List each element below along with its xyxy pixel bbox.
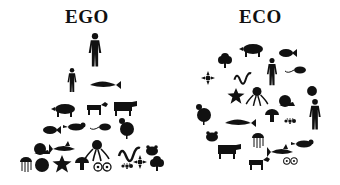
coral-icon (150, 156, 164, 171)
snail-icon (34, 143, 50, 155)
silhouettes (0, 0, 340, 185)
snake-icon (119, 148, 140, 161)
flower-icon (133, 155, 147, 169)
jellyfish-icon (252, 133, 264, 148)
cow-icon (218, 144, 241, 159)
sphere-icon (35, 158, 49, 172)
pig-icon (239, 44, 263, 57)
human-icon (309, 99, 320, 129)
snake-icon (234, 73, 251, 84)
mushroom-icon (75, 157, 89, 170)
ant-icon (284, 118, 296, 124)
chicken-icon (196, 104, 211, 125)
cow-icon (114, 101, 137, 116)
whale-icon (225, 119, 256, 127)
cells-icon (94, 163, 111, 171)
shark-icon (49, 141, 75, 154)
dog-icon (249, 157, 270, 170)
ant-icon (121, 163, 133, 169)
fish-icon (43, 126, 61, 134)
flower-icon (201, 71, 215, 85)
human-icon (89, 33, 102, 67)
sphere-icon (307, 86, 317, 96)
jellyfish-icon (20, 157, 32, 172)
frog-icon (146, 145, 158, 155)
human-small-icon (68, 68, 77, 92)
cells-icon (284, 158, 298, 164)
octopus-icon (85, 140, 109, 161)
bird-icon (291, 140, 314, 148)
dog-icon (87, 102, 108, 115)
octopus-icon (246, 87, 268, 106)
frog-icon (206, 131, 218, 141)
ego-eco-illustration: EGO ECO (0, 0, 340, 185)
chicken-icon (119, 118, 134, 139)
starfish-icon (53, 155, 72, 173)
rat-icon (285, 67, 306, 74)
fish-icon (279, 49, 297, 57)
shark-icon (267, 144, 293, 157)
mushroom-icon (265, 109, 279, 122)
bird-icon (63, 123, 86, 131)
starfish-icon (227, 88, 244, 104)
pig-icon (51, 104, 75, 117)
rat-icon (90, 124, 111, 131)
coral-icon (218, 53, 232, 68)
human-icon (267, 58, 277, 85)
snail-icon (279, 95, 295, 107)
whale-icon (90, 81, 121, 89)
